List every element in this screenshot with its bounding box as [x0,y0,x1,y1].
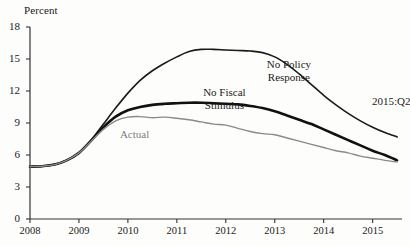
unemployment-rate-chart: Percent 0369121518 200820092010201120122… [0,0,410,246]
annotation-no-fiscal-stimulus: No FiscalStimulus [203,86,245,111]
x-tick-label-2013: 2013 [253,225,297,236]
annotation-line-1: Actual [120,128,149,141]
y-tick-label-6: 6 [0,148,20,160]
annotation-line-1: No Fiscal [203,86,245,99]
annotation-actual: Actual [120,128,149,141]
x-tick-label-2008: 2008 [8,225,52,236]
tick-marks [26,27,373,223]
series-line-no-fiscal-stimulus [30,103,397,167]
x-tick-label-2012: 2012 [204,225,248,236]
y-axis-title: Percent [24,4,58,16]
chart-plot-area [0,0,410,246]
axis-lines [30,27,402,219]
annotation-no-policy-response: No PolicyResponse [267,58,311,83]
x-tick-label-2010: 2010 [106,225,150,236]
series-line-actual [30,117,397,167]
x-tick-label-2011: 2011 [155,225,199,236]
annotation-line-2: Response [267,71,311,84]
y-tick-label-0: 0 [0,212,20,224]
annotation-period-marker: 2015:Q2 [372,95,410,108]
y-tick-label-9: 9 [0,116,20,128]
annotation-line-1: 2015:Q2 [372,95,410,108]
y-tick-label-15: 15 [0,52,20,64]
y-tick-label-12: 12 [0,84,20,96]
y-tick-label-18: 18 [0,20,20,32]
y-tick-label-3: 3 [0,180,20,192]
x-tick-label-2015: 2015 [351,225,395,236]
x-tick-label-2014: 2014 [302,225,346,236]
annotation-line-1: No Policy [267,58,311,71]
x-tick-label-2009: 2009 [57,225,101,236]
annotation-line-2: Stimulus [203,99,245,112]
